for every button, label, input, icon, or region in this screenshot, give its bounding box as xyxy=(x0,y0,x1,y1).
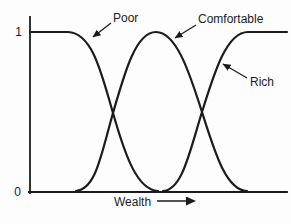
y-tick-0: 0 xyxy=(14,185,21,199)
y-tick-1: 1 xyxy=(15,25,22,39)
poor-annotation-arrow-icon xyxy=(93,23,111,37)
fuzzy-membership-figure: 1 0 Poor Comfortable Rich Wealth xyxy=(0,0,291,224)
comfortable-annotation-arrow-icon xyxy=(175,25,196,38)
comfortable-label: Comfortable xyxy=(198,12,264,26)
poor-curve xyxy=(30,32,158,191)
rich-label: Rich xyxy=(250,75,274,89)
chart-canvas: 1 0 Poor Comfortable Rich Wealth xyxy=(0,0,291,224)
rich-annotation-arrow-icon xyxy=(223,64,247,78)
wealth-axis-label: Wealth xyxy=(114,195,151,209)
poor-label: Poor xyxy=(113,11,138,25)
